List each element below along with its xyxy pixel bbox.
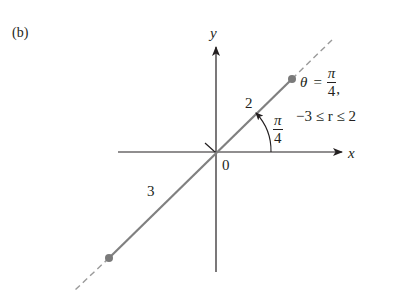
equation-fraction-denominator: 4 xyxy=(328,83,336,99)
segment-length-3-label: 3 xyxy=(147,184,155,199)
panel-label: (b) xyxy=(12,26,28,40)
angle-label: π 4 xyxy=(273,113,283,146)
angle-arc xyxy=(256,113,271,152)
equation-fraction: π 4 xyxy=(327,66,337,99)
origin-label: 0 xyxy=(222,158,230,173)
equation-r-range: −3 ≤ r ≤ 2 xyxy=(296,109,356,124)
angle-label-numerator: π xyxy=(273,113,283,130)
ray-segment xyxy=(109,79,292,258)
equation-fraction-numerator: π xyxy=(327,66,337,83)
endpoint-r-2 xyxy=(288,75,296,83)
equation-equals: = xyxy=(313,75,321,90)
polar-diagram xyxy=(0,0,418,298)
origin-tick xyxy=(205,143,215,152)
ray-dashed-extension-negative xyxy=(74,258,109,291)
equation-theta-symbol: θ xyxy=(300,75,307,90)
endpoint-r-neg3 xyxy=(105,254,113,262)
x-axis-label: x xyxy=(348,146,355,161)
y-axis-label: y xyxy=(210,26,217,41)
angle-label-denominator: 4 xyxy=(274,130,282,146)
equation-comma: , xyxy=(336,82,340,97)
segment-length-2-label: 2 xyxy=(245,96,253,111)
equation-theta: θ = π 4 , xyxy=(300,66,340,99)
